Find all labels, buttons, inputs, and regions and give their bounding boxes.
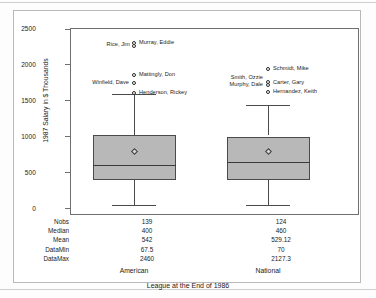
national-median-line — [227, 162, 310, 163]
ytick-label-1000: 1000 — [0, 133, 36, 140]
stats-national-median: 460 — [251, 226, 311, 235]
stats-label-datamax: DataMax — [27, 254, 69, 263]
national-whisker-lower — [268, 180, 269, 205]
ytick-label-2000: 2000 — [0, 61, 36, 68]
american-median-line — [93, 165, 176, 166]
stats-row-datamin: DataMin 67.5 70 — [27, 245, 361, 254]
ytick-label-2500: 2500 — [0, 25, 36, 32]
stats-american-median: 400 — [117, 226, 177, 235]
outlier-point-henderson — [132, 91, 136, 95]
stats-label-median: Median — [27, 226, 69, 235]
stats-national-datamin: 70 — [251, 245, 311, 254]
outlier-label-murphy: Murphy, Dale — [199, 81, 263, 87]
stats-row-mean: Mean 542 529.12 — [27, 235, 361, 244]
bottom-divider — [0, 289, 376, 290]
stats-row-datamax: DataMax 2460 2127.3 — [27, 254, 361, 263]
stats-american-datamax: 2460 — [117, 254, 177, 263]
outlier-point-smith-murphy — [266, 83, 270, 87]
y-axis-title: 1987 Salary in $ Thousands — [42, 26, 49, 176]
stats-row-nobs: Nobs 139 124 — [27, 217, 361, 226]
american-whisker-cap-lower — [112, 205, 156, 206]
category-label-national: National — [223, 267, 313, 274]
stats-row-median: Median 400 460 — [27, 226, 361, 235]
stats-national-nobs: 124 — [251, 217, 311, 226]
american-whisker-lower — [134, 180, 135, 205]
ytick-label-0: 0 — [0, 205, 36, 212]
national-whisker-upper — [268, 105, 269, 135]
stats-label-mean: Mean — [27, 235, 69, 244]
stats-national-mean: 529.12 — [251, 235, 311, 244]
stats-label-datamin: DataMin — [27, 245, 69, 254]
figure-canvas: 2500 2000 1500 1000 500 0 1987 Salary in… — [0, 0, 376, 298]
x-axis-title: League at the End of 1986 — [14, 282, 362, 289]
outlier-label-smith: Smith, Ozzie — [199, 74, 263, 80]
outlier-label-henderson: Henderson, Rickey — [139, 89, 187, 95]
stats-american-datamin: 67.5 — [117, 245, 177, 254]
outlier-label-schmidt: Schmidt, Mike — [273, 65, 309, 71]
national-box — [227, 137, 310, 180]
stats-american-nobs: 139 — [117, 217, 177, 226]
national-whisker-cap-upper — [246, 105, 290, 106]
top-divider — [0, 2, 376, 3]
outlier-point-mattingly — [132, 73, 136, 77]
outlier-label-carter: Carter, Gary — [273, 79, 304, 85]
outlier-point-murray — [132, 41, 136, 45]
stats-table: Nobs 139 124 Median 400 460 Mean 542 529… — [27, 217, 361, 263]
plot-area: Rice, Jim Murray, Eddie Mattingly, Don W… — [70, 28, 359, 215]
national-whisker-cap-lower — [246, 205, 290, 206]
ytick-label-1500: 1500 — [0, 97, 36, 104]
stats-american-mean: 542 — [117, 235, 177, 244]
outlier-label-mattingly: Mattingly, Don — [139, 71, 175, 77]
category-label-american: American — [89, 267, 179, 274]
outlier-label-murray: Murray, Eddie — [139, 39, 174, 45]
stats-label-nobs: Nobs — [27, 217, 69, 226]
chart-panel: 2500 2000 1500 1000 500 0 1987 Salary in… — [13, 10, 361, 283]
outlier-label-hernandez: Hernandez, Keith — [273, 88, 317, 94]
outlier-point-hernandez — [266, 90, 270, 94]
american-whisker-upper — [134, 94, 135, 135]
outlier-point-winfield — [132, 81, 136, 85]
outlier-label-winfield: Winfield, Dave — [66, 79, 129, 85]
stats-national-datamax: 2127.3 — [251, 254, 311, 263]
outlier-point-schmidt — [266, 67, 270, 71]
american-box — [93, 135, 176, 180]
ytick-label-500: 500 — [0, 169, 36, 176]
outlier-label-rice: Rice, Jim — [70, 41, 130, 47]
